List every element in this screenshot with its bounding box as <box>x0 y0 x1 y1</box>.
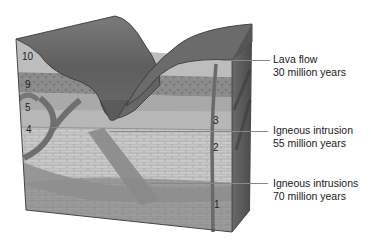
callout-age: 70 million years <box>273 190 358 203</box>
block-diagram-graphic <box>0 0 371 245</box>
callout-title: Lava flow <box>273 53 346 66</box>
callout-lava-flow: Lava flow 30 million years <box>273 53 346 79</box>
callout-igneous-intrusions-70: Igneous intrusions 70 million years <box>273 177 358 203</box>
layer-label-9: 9 <box>25 80 31 90</box>
layer-label-5: 5 <box>25 103 31 113</box>
callout-age: 55 million years <box>273 137 353 150</box>
callout-age: 30 million years <box>273 66 346 79</box>
callout-title: Igneous intrusion <box>273 124 353 137</box>
leader-line-intrusion-55 <box>110 131 268 132</box>
callout-igneous-intrusion-55: Igneous intrusion 55 million years <box>273 124 353 150</box>
layer-label-4: 4 <box>26 125 32 135</box>
layer-label-3: 3 <box>213 116 219 126</box>
leader-line-intrusion-70 <box>150 183 268 184</box>
layer-label-1: 1 <box>214 200 220 210</box>
layer-label-10: 10 <box>22 52 33 62</box>
leader-line-lava <box>222 60 270 61</box>
callout-title: Igneous intrusions <box>273 177 358 190</box>
layer-label-2: 2 <box>213 143 219 153</box>
geologic-block-diagram: 10 9 5 4 3 2 1 Lava flow 30 million year… <box>0 0 371 245</box>
